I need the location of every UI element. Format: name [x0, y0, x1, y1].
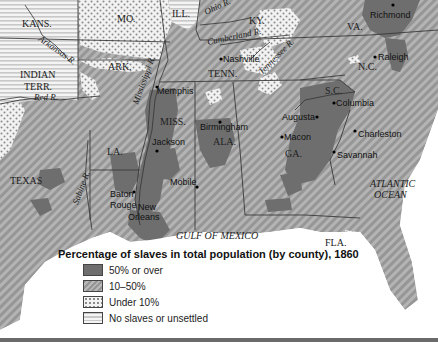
- city-savannah: Savannah: [337, 150, 378, 160]
- label-gulf: GULF OF MEXICO: [176, 230, 258, 241]
- legend-item-over-50: 50% or over: [83, 262, 318, 278]
- legend-item-under-10: Under 10%: [83, 294, 318, 310]
- frame-border: [0, 338, 438, 342]
- swatch-dark: [83, 264, 103, 276]
- label-indian-terr-2: TERR.: [24, 81, 52, 92]
- label-ky: KY.: [249, 15, 265, 26]
- label-ala: ALA.: [213, 136, 236, 147]
- label-ill: ILL.: [172, 8, 190, 19]
- label-texas: TEXAS: [10, 175, 42, 186]
- label-la: LA.: [107, 146, 123, 157]
- legend-item-no-slaves: No slaves or unsettled: [83, 310, 318, 326]
- label-kans: KANS.: [22, 18, 52, 29]
- city-memphis: Memphis: [157, 86, 194, 96]
- legend-label: Under 10%: [109, 297, 159, 308]
- label-indian-terr-1: INDIAN: [20, 69, 56, 80]
- label-va: VA.: [347, 21, 363, 32]
- city-new-orleans-1: New: [138, 202, 157, 212]
- legend: Percentage of slaves in total population…: [58, 248, 318, 326]
- city-baton-rouge-1: Baton: [110, 189, 134, 199]
- label-nc: N.C.: [358, 61, 377, 72]
- city-raleigh: Raleigh: [378, 52, 409, 62]
- label-miss: MISS.: [160, 116, 186, 127]
- city-columbia: Columbia: [336, 98, 374, 108]
- label-ark: ARK.: [108, 61, 132, 72]
- city-mobile: Mobile: [170, 177, 197, 187]
- legend-label: 50% or over: [109, 265, 163, 276]
- label-ga: GA.: [285, 148, 302, 159]
- swatch-striped: [83, 312, 103, 324]
- city-new-orleans-2: Orleans: [128, 212, 160, 222]
- label-atlantic-1: ATLANTIC: [369, 178, 416, 189]
- label-mo: MO.: [117, 13, 136, 24]
- label-red-river: Red R.: [33, 92, 58, 102]
- label-sc: S.C.: [325, 85, 342, 96]
- label-tenn: TENN.: [208, 68, 237, 79]
- city-augusta: Augusta: [282, 112, 315, 122]
- city-nashville: Nashville: [223, 54, 260, 64]
- city-macon: Macon: [284, 132, 311, 142]
- slavery-1860-map: KANS. MO. ILL. KY. VA. ARK. INDIAN TERR.…: [0, 0, 438, 342]
- swatch-hatched: [83, 280, 103, 292]
- swatch-dotted: [83, 296, 103, 308]
- city-jackson: Jackson: [152, 137, 185, 147]
- label-atlantic-2: OCEAN: [374, 189, 408, 200]
- city-birmingham: Birmingham: [200, 122, 248, 132]
- city-charleston: Charleston: [358, 129, 402, 139]
- legend-label: 10–50%: [109, 281, 146, 292]
- label-fla: FLA.: [325, 237, 346, 248]
- legend-label: No slaves or unsettled: [109, 313, 208, 324]
- legend-title: Percentage of slaves in total population…: [58, 248, 318, 260]
- legend-item-10-50: 10–50%: [83, 278, 318, 294]
- city-richmond: Richmond: [370, 10, 411, 20]
- city-baton-rouge-2: Rouge: [110, 200, 137, 210]
